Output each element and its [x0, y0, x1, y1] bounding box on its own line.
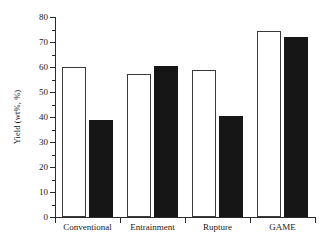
y-tick-major: [50, 192, 55, 193]
y-tick-major: [50, 142, 55, 143]
y-tick-label: 70: [39, 37, 48, 47]
bar-filled-rupture: [219, 116, 243, 217]
y-tick-major: [50, 117, 55, 118]
y-tick-label: 30: [39, 137, 48, 147]
y-tick-major: [50, 167, 55, 168]
y-tick-label: 20: [39, 162, 48, 172]
y-tick-label: 60: [39, 62, 48, 72]
bar-filled-game: [284, 37, 308, 217]
y-axis-line: [55, 17, 56, 218]
y-tick-major: [50, 67, 55, 68]
x-category-label: Conventional: [63, 222, 112, 232]
bar-open-game: [257, 31, 281, 217]
y-tick-minor: [52, 205, 55, 206]
bar-chart: Yield (wt%, %) 01020304050607080 Convent…: [0, 0, 334, 248]
plot-area: 01020304050607080: [55, 17, 315, 217]
y-axis-label: Yield (wt%, %): [12, 67, 22, 167]
x-category-label: GAME: [269, 222, 296, 232]
y-tick-label: 10: [39, 187, 48, 197]
x-tick: [55, 218, 56, 223]
x-category-label: Rupture: [203, 222, 232, 232]
x-tick: [185, 218, 186, 223]
y-tick-major: [50, 92, 55, 93]
y-tick-minor: [52, 30, 55, 31]
y-tick-minor: [52, 55, 55, 56]
bar-open-entrainment: [127, 74, 151, 218]
y-tick-minor: [52, 80, 55, 81]
y-tick-minor: [52, 130, 55, 131]
x-tick: [315, 218, 316, 223]
y-tick-minor: [52, 180, 55, 181]
y-tick-label: 0: [44, 212, 49, 222]
y-tick-minor: [52, 155, 55, 156]
bar-open-conventional: [62, 67, 86, 218]
bar-filled-entrainment: [154, 66, 178, 217]
y-tick-major: [50, 17, 55, 18]
x-tick: [250, 218, 251, 223]
bar-open-rupture: [192, 70, 216, 218]
y-tick-label: 80: [39, 12, 48, 22]
y-tick-minor: [52, 105, 55, 106]
y-tick-label: 40: [39, 112, 48, 122]
x-category-label: Entrainment: [130, 222, 175, 232]
bar-filled-conventional: [89, 120, 113, 217]
y-tick-label: 50: [39, 87, 48, 97]
x-tick: [120, 218, 121, 223]
y-tick-major: [50, 42, 55, 43]
